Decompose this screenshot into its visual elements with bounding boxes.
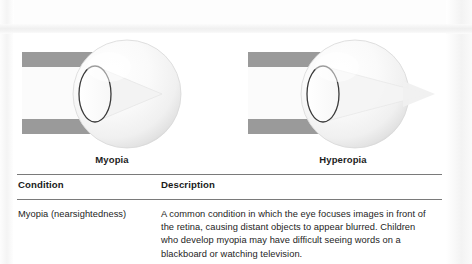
myopia-eye-illustration (17, 33, 207, 153)
scanned-page: Myopia (0, 0, 472, 264)
hyperopia-caption: Hyperopia (243, 154, 443, 165)
column-header-condition: Condition (18, 179, 64, 190)
cell-description: A common condition in which the eye focu… (161, 208, 433, 261)
page-content: Myopia (13, 33, 446, 264)
scan-edge-left (0, 0, 14, 264)
globe-highlight (315, 52, 359, 82)
table-top-rule (17, 174, 442, 175)
column-header-description: Description (161, 179, 215, 190)
cell-condition: Myopia (nearsightedness) (18, 208, 158, 221)
myopia-figure: Myopia (17, 33, 207, 153)
scan-edge-right (446, 0, 472, 264)
globe-highlight (87, 52, 131, 82)
table-header-rule (17, 199, 442, 200)
myopia-caption: Myopia (17, 154, 207, 165)
hyperopia-eye-illustration (243, 33, 443, 153)
focal-point-behind-retina (403, 81, 435, 107)
hyperopia-figure: Hyperopia (243, 33, 443, 153)
eye-diagram-row: Myopia (13, 33, 446, 173)
cell-description-text: A common condition in which the eye focu… (161, 208, 433, 261)
table-header-row: Condition Description (13, 179, 446, 197)
